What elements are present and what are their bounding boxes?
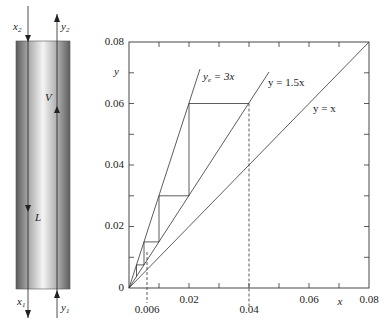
diagonal-line-label: y = x (313, 102, 336, 114)
label-y2: y2 (60, 20, 70, 34)
diagram-canvas: x2 y2 V L x1 y1 (0, 0, 391, 330)
x-marked-label: 0.006 (135, 303, 160, 315)
label-x2: x2 (12, 20, 22, 34)
x-tick-label: 0.06 (299, 293, 319, 305)
y-tick-label: 0.02 (105, 219, 124, 231)
mccabe-thiele-chart: 0.08 0.06 0.04 0.02 0 y 0.02 0.06 0.08 0… (105, 35, 379, 315)
arrow-up-icon (54, 290, 60, 298)
label-liquid: L (34, 211, 41, 223)
absorption-column: x2 y2 V L x1 y1 (12, 6, 70, 318)
x-tick-label: 0.08 (359, 293, 379, 305)
label-x1: x1 (16, 295, 25, 309)
y-tick-label: 0.04 (105, 158, 125, 170)
y-tick-label: 0.06 (105, 97, 125, 109)
operating-line-label: y = 1.5x (268, 76, 305, 88)
arrow-down-icon (25, 310, 31, 318)
x-axis-label: x (337, 295, 343, 307)
x-tick-label: 0.02 (179, 293, 198, 305)
equilibrium-line-label: ye = 3x (202, 70, 234, 84)
y-axis-label: y (113, 65, 119, 77)
y-tick-label: 0 (119, 281, 125, 293)
operating-line (129, 72, 269, 288)
label-y1: y1 (60, 301, 69, 315)
arrow-up-icon (54, 14, 60, 22)
y-tick-label: 0.08 (105, 35, 125, 47)
